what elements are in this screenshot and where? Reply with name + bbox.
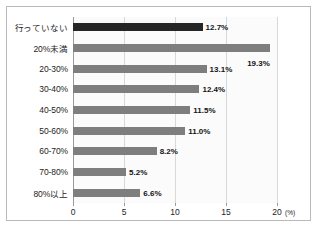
category-label: 50-60% [39,126,68,136]
bar-row: 80%以上6.6% [73,182,277,203]
value-label: 13.1% [210,64,233,73]
plot-area: 行っていない12.7%20%未満19.3%20-30%13.1%30-40%12… [73,17,277,203]
bar [73,23,203,31]
category-label: 40-50% [39,105,68,115]
tick-label: 5 [122,207,127,217]
bar [73,189,140,197]
category-label: 30-40% [39,84,68,94]
bar-row: 20-30%13.1% [73,58,277,79]
gridline-20 [277,17,278,203]
tick-label: 10 [170,207,179,217]
category-label: 20-30% [39,64,68,74]
tick-mark [226,203,227,206]
tick-label: 15 [221,207,230,217]
chart-frame: 行っていない12.7%20%未満19.3%20-30%13.1%30-40%12… [6,6,311,221]
tick-mark [277,203,278,206]
category-label: 80%以上 [33,187,68,199]
value-label: 11.0% [188,126,210,135]
category-label: 60-70% [39,146,68,156]
category-label: 20%未満 [33,42,68,54]
bar [73,85,199,93]
value-label: 8.2% [160,147,178,156]
value-label: 6.6% [143,188,161,197]
category-label: 70-80% [39,167,68,177]
bar [73,44,270,52]
bar [73,127,185,135]
bar-row: 70-80%5.2% [73,162,277,183]
bar-row: 30-40%12.4% [73,79,277,100]
value-label: 12.4% [202,85,225,94]
tick-mark [124,203,125,206]
category-label: 行っていない [15,21,68,33]
value-label: 5.2% [129,167,147,176]
bar [73,168,126,176]
tick-mark [73,203,74,206]
bar [73,147,157,155]
bar-row: 50-60%11.0% [73,120,277,141]
bar [73,65,207,73]
bar-row: 60-70%8.2% [73,141,277,162]
bar-row: 40-50%11.5% [73,100,277,121]
value-label: 12.7% [206,23,229,32]
bar-row: 行っていない12.7% [73,17,277,38]
tick-mark [175,203,176,206]
tick-label: 0 [71,207,76,217]
bar-row: 20%未満19.3% [73,38,277,59]
bar [73,106,190,114]
value-label: 11.5% [193,105,215,114]
tick-label: 20 [272,207,281,217]
x-axis: 05101520 (%) [73,203,277,221]
x-axis-unit-label: (%) [285,209,295,216]
